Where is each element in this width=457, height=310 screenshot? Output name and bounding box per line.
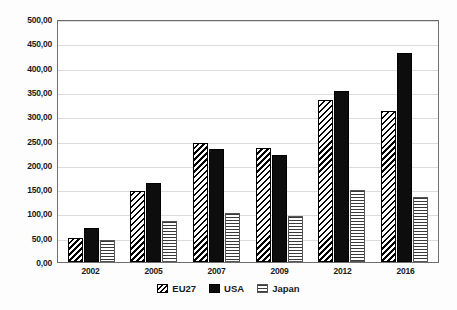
legend-label: Japan bbox=[272, 283, 299, 294]
bar-usa-2005 bbox=[146, 183, 161, 262]
legend-label: EU27 bbox=[172, 283, 196, 294]
legend-swatch-japan-icon bbox=[257, 284, 268, 293]
bar-usa-2009 bbox=[272, 155, 287, 262]
bar-usa-2002 bbox=[84, 228, 99, 262]
legend-swatch-eu27-icon bbox=[157, 284, 168, 293]
bar-japan-2016 bbox=[413, 197, 428, 262]
bar-japan-2012 bbox=[350, 190, 365, 262]
legend-item-usa[interactable]: USA bbox=[209, 283, 244, 294]
y-tick-label: 0,00 bbox=[36, 258, 52, 268]
chart-legend: EU27USAJapan bbox=[0, 283, 457, 294]
bar-eu27-2012 bbox=[318, 100, 333, 262]
bar-japan-2002 bbox=[100, 240, 115, 262]
y-tick-label: 250,00 bbox=[27, 137, 52, 147]
bar-usa-2016 bbox=[397, 53, 412, 262]
bar-eu27-2007 bbox=[193, 143, 208, 262]
bar-group-2002 bbox=[68, 21, 115, 262]
legend-item-japan[interactable]: Japan bbox=[257, 283, 299, 294]
bar-chart-figure: 0,0050,00100,00150,00200,00250,00300,003… bbox=[0, 0, 457, 310]
bar-group-2016 bbox=[381, 21, 428, 262]
y-tick-label: 500,00 bbox=[27, 15, 52, 25]
plot-area bbox=[57, 20, 439, 263]
x-tick-label-2005: 2005 bbox=[129, 266, 179, 276]
bar-eu27-2016 bbox=[381, 111, 396, 262]
y-tick-label: 450,00 bbox=[27, 39, 52, 49]
y-axis: 0,0050,00100,00150,00200,00250,00300,003… bbox=[0, 20, 52, 263]
bar-usa-2012 bbox=[334, 91, 349, 262]
y-tick-label: 400,00 bbox=[27, 64, 52, 74]
bar-usa-2007 bbox=[209, 149, 224, 262]
bar-eu27-2009 bbox=[256, 148, 271, 262]
x-tick-label-2009: 2009 bbox=[255, 266, 305, 276]
bar-group-2007 bbox=[193, 21, 240, 262]
x-tick-label-2007: 2007 bbox=[192, 266, 242, 276]
legend-swatch-usa-icon bbox=[209, 284, 220, 293]
x-tick-label-2002: 2002 bbox=[66, 266, 116, 276]
x-axis: 200220052007200920122016 bbox=[57, 266, 439, 276]
y-tick-label: 300,00 bbox=[27, 112, 52, 122]
y-tick-label: 100,00 bbox=[27, 209, 52, 219]
bar-eu27-2005 bbox=[130, 191, 145, 262]
bars-layer bbox=[58, 21, 438, 262]
bar-group-2009 bbox=[256, 21, 303, 262]
x-tick-label-2012: 2012 bbox=[318, 266, 368, 276]
bar-japan-2005 bbox=[162, 221, 177, 262]
legend-item-eu27[interactable]: EU27 bbox=[157, 283, 196, 294]
bar-eu27-2002 bbox=[68, 238, 83, 262]
bar-group-2005 bbox=[130, 21, 177, 262]
x-tick-label-2016: 2016 bbox=[381, 266, 431, 276]
bar-japan-2009 bbox=[288, 216, 303, 262]
y-tick-label: 350,00 bbox=[27, 88, 52, 98]
y-tick-label: 150,00 bbox=[27, 185, 52, 195]
legend-label: USA bbox=[224, 283, 244, 294]
bar-group-2012 bbox=[318, 21, 365, 262]
bar-japan-2007 bbox=[225, 213, 240, 262]
y-tick-label: 50,00 bbox=[32, 234, 52, 244]
y-tick-label: 200,00 bbox=[27, 161, 52, 171]
